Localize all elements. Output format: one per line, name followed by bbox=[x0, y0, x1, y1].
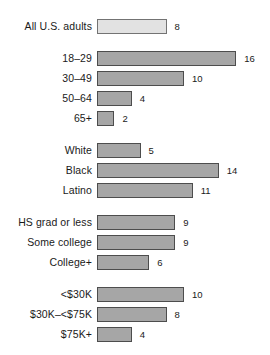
category-label: $75K+ bbox=[0, 327, 92, 342]
bar bbox=[97, 91, 132, 106]
category-label: Black bbox=[0, 163, 92, 178]
bar-row: 50–644 bbox=[0, 91, 270, 106]
category-label: HS grad or less bbox=[0, 215, 92, 230]
bar bbox=[97, 51, 236, 66]
bar bbox=[97, 111, 114, 126]
bar-value-label: 11 bbox=[201, 183, 211, 198]
bar-value-label: 8 bbox=[175, 19, 180, 34]
bar-value-label: 6 bbox=[157, 255, 162, 270]
bar-value-label: 9 bbox=[183, 235, 188, 250]
category-label: College+ bbox=[0, 255, 92, 270]
bar-row: HS grad or less9 bbox=[0, 215, 270, 230]
category-label: White bbox=[0, 143, 92, 158]
bar bbox=[97, 163, 219, 178]
bar-row: White5 bbox=[0, 143, 270, 158]
category-label: Latino bbox=[0, 183, 92, 198]
bar-value-label: 9 bbox=[183, 215, 188, 230]
bar-value-label: 10 bbox=[192, 71, 203, 86]
bar-group-total: All U.S. adults8 bbox=[0, 19, 270, 39]
category-label: $30K–<$75K bbox=[0, 307, 92, 322]
bar-value-label: 8 bbox=[175, 307, 180, 322]
bar-row: 65+2 bbox=[0, 111, 270, 126]
bar-group-income: <$30K10$30K–<$75K8$75K+4 bbox=[0, 287, 270, 347]
bar-value-label: 16 bbox=[244, 51, 255, 66]
bar bbox=[97, 71, 184, 86]
bar-value-label: 4 bbox=[140, 327, 145, 342]
bar-row: College+6 bbox=[0, 255, 270, 270]
bar-group-race-ethnicity: White5Black14Latino11 bbox=[0, 143, 270, 203]
bar-row: $30K–<$75K8 bbox=[0, 307, 270, 322]
bar-row: 18–2916 bbox=[0, 51, 270, 66]
category-label: 50–64 bbox=[0, 91, 92, 106]
bar-value-label: 10 bbox=[192, 287, 203, 302]
bar bbox=[97, 255, 149, 270]
bar-row: $75K+4 bbox=[0, 327, 270, 342]
bar bbox=[97, 143, 141, 158]
bar-row: Some college9 bbox=[0, 235, 270, 250]
bar-value-label: 2 bbox=[122, 111, 127, 126]
bar bbox=[97, 235, 175, 250]
category-label: 30–49 bbox=[0, 71, 92, 86]
bar-value-label: 4 bbox=[140, 91, 145, 106]
bar-group-age: 18–291630–491050–64465+2 bbox=[0, 51, 270, 131]
bar-row: Black14 bbox=[0, 163, 270, 178]
bar-row: <$30K10 bbox=[0, 287, 270, 302]
bar-value-label: 14 bbox=[227, 163, 238, 178]
bar bbox=[97, 19, 167, 34]
category-label: 65+ bbox=[0, 111, 92, 126]
category-label: Some college bbox=[0, 235, 92, 250]
bar bbox=[97, 215, 175, 230]
bar bbox=[97, 327, 132, 342]
bar-row: 30–4910 bbox=[0, 71, 270, 86]
category-label: All U.S. adults bbox=[0, 19, 92, 34]
bar-row: All U.S. adults8 bbox=[0, 19, 270, 34]
category-label: 18–29 bbox=[0, 51, 92, 66]
bar-chart: All U.S. adults818–291630–491050–64465+2… bbox=[0, 0, 270, 355]
bar bbox=[97, 307, 167, 322]
bar bbox=[97, 183, 193, 198]
bar-value-label: 5 bbox=[149, 143, 154, 158]
bar-group-education: HS grad or less9Some college9College+6 bbox=[0, 215, 270, 275]
bar bbox=[97, 287, 184, 302]
bar-row: Latino11 bbox=[0, 183, 270, 198]
category-label: <$30K bbox=[0, 287, 92, 302]
